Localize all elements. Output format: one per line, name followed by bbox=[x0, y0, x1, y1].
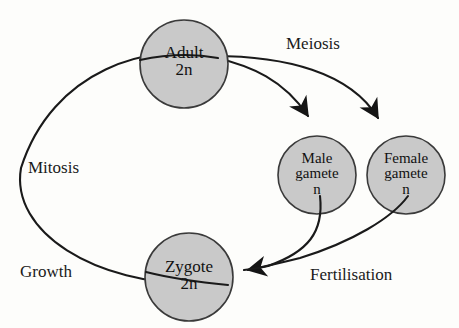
edge-label-growth: Growth bbox=[20, 262, 72, 282]
fert-converge-tail bbox=[244, 266, 268, 270]
node-male-gamete[interactable] bbox=[278, 136, 356, 214]
node-zygote[interactable] bbox=[145, 233, 233, 321]
lifecycle-diagram: Adult 2n Male gamete n Female gamete n Z… bbox=[0, 0, 459, 328]
node-female-gamete[interactable] bbox=[367, 136, 445, 214]
edge-label-fertilisation: Fertilisation bbox=[310, 265, 392, 285]
edge-meiosis-to-female-gamete bbox=[213, 56, 378, 118]
edge-label-mitosis: Mitosis bbox=[28, 158, 79, 178]
meiosis-female-curve bbox=[213, 56, 378, 118]
edge-label-meiosis: Meiosis bbox=[286, 34, 340, 54]
node-adult[interactable] bbox=[140, 20, 228, 108]
